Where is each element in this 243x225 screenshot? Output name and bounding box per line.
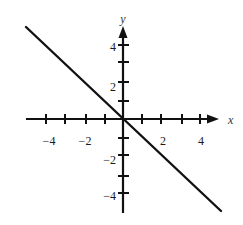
- y-tick-label-4: 4: [110, 40, 116, 54]
- y-tick-label-neg2: −2: [103, 153, 116, 167]
- x-tick-label-neg4: −4: [43, 134, 56, 148]
- y-axis-label: y: [119, 12, 126, 26]
- y-axis-arrow-icon: [119, 26, 128, 38]
- y-tick-label-neg4: −4: [103, 189, 116, 203]
- x-tick-label-neg2: −2: [79, 134, 92, 148]
- coordinate-plot: −4 −2 2 4 4 2 −2 −4 x y: [0, 0, 243, 225]
- y-tick-label-2: 2: [110, 80, 116, 94]
- x-tick-label-4: 4: [198, 134, 204, 148]
- x-axis-arrow-icon: [207, 115, 219, 124]
- x-axis-label: x: [227, 113, 234, 127]
- x-tick-label-2: 2: [160, 134, 166, 148]
